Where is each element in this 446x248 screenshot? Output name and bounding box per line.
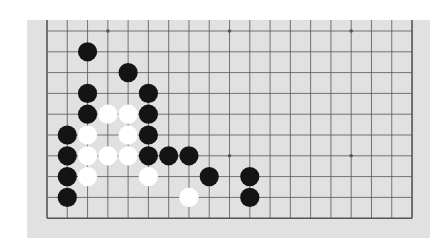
black-stone[interactable] (139, 125, 158, 144)
black-stone[interactable] (159, 146, 178, 165)
white-stone[interactable] (98, 146, 117, 165)
black-stone[interactable] (139, 84, 158, 103)
black-stone[interactable] (139, 146, 158, 165)
black-stone[interactable] (78, 42, 97, 61)
black-stone[interactable] (240, 188, 259, 207)
white-stone[interactable] (78, 146, 97, 165)
white-stone[interactable] (78, 125, 97, 144)
white-stone[interactable] (78, 167, 97, 186)
black-stone[interactable] (78, 84, 97, 103)
black-stone[interactable] (58, 146, 77, 165)
black-stone[interactable] (58, 188, 77, 207)
black-stone[interactable] (78, 105, 97, 124)
white-stone[interactable] (119, 125, 138, 144)
white-stone[interactable] (139, 167, 158, 186)
star-point (106, 29, 110, 33)
black-stone[interactable] (200, 167, 219, 186)
star-point (228, 154, 232, 158)
white-stone[interactable] (119, 146, 138, 165)
white-stone[interactable] (179, 188, 198, 207)
board-grid[interactable] (27, 20, 430, 238)
black-stone[interactable] (139, 105, 158, 124)
white-stone[interactable] (119, 105, 138, 124)
star-point (349, 29, 353, 33)
go-board[interactable] (27, 20, 430, 238)
star-point (349, 154, 353, 158)
black-stone[interactable] (179, 146, 198, 165)
black-stone[interactable] (240, 167, 259, 186)
black-stone[interactable] (58, 125, 77, 144)
black-stone[interactable] (119, 63, 138, 82)
white-stone[interactable] (98, 105, 117, 124)
star-point (228, 29, 232, 33)
black-stone[interactable] (58, 167, 77, 186)
